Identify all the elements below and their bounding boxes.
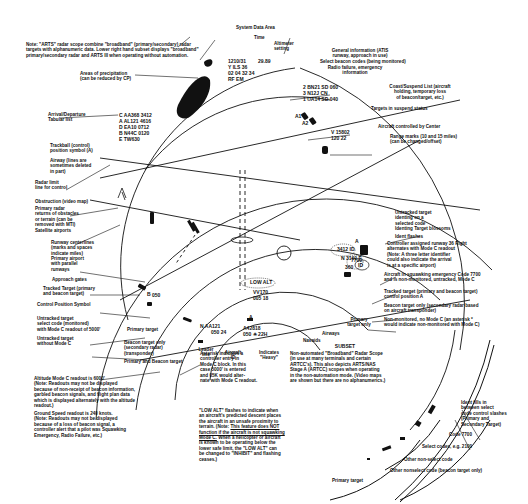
tabular-row: E TW630 [119, 137, 140, 143]
subset-primary-target [367, 458, 370, 460]
tracked-alt: 050 [152, 293, 160, 299]
airways-label: Airways [322, 331, 340, 336]
subset-select-code [415, 420, 422, 427]
primary-target-left [183, 317, 192, 323]
ident-blossom [360, 245, 368, 255]
satellite-airports-label: Satellite airports [35, 228, 71, 233]
a42-line-2: 050 ✳ 22H [243, 332, 267, 338]
suspend-label: Targets in suspend status [371, 106, 428, 111]
ident-a: A [355, 239, 359, 245]
ident-blossoms-label: Identing Target blossoms [395, 226, 451, 231]
control-position-label: Control Position Symbol [37, 302, 91, 307]
runway-centerlines-label: Runway centerlines (marks and spaces ind… [51, 240, 94, 256]
beacon-only-right-label: Beacon target only (secondary radar base… [384, 303, 478, 314]
tracked-letter: B [147, 292, 151, 298]
suspend-target-a2 [309, 117, 317, 126]
tracked-target-label: Tracked Target (primary and beacon targe… [43, 286, 95, 297]
sda-line-4: RF EM [228, 77, 244, 83]
system-data-area-label: System Data Area [236, 25, 275, 30]
aa121-line-2: 050 24 [211, 330, 226, 336]
primary-only-label: Primary target only [342, 317, 376, 328]
subset-other-non-select-label: Other non-select code [404, 457, 453, 462]
non-monitored-label: Non-monitored, no Mode C (an asterisk * … [384, 317, 479, 328]
obstruction-label: Obstruction (video map) [35, 199, 88, 204]
approach-gates-label: Approach gates [52, 277, 87, 282]
general-info-label: General information (ATIS runway, approa… [310, 48, 410, 59]
precipitation-label: Areas of precipitation (can be reduced b… [80, 71, 131, 82]
coast-list-label: Coast/Suspend List (aircraft holding, te… [370, 84, 470, 100]
suspend-a2: A2 [302, 121, 308, 127]
radar-limit-label: Radar limit line for control [35, 180, 67, 191]
subset-primary-target-label: Primary target [332, 478, 363, 483]
tabular-list-label: Arrival/Departure Tabular list [48, 112, 86, 123]
obstruction-icon [118, 188, 126, 200]
untracked-select-label: Untracked target select code (monitored)… [37, 316, 100, 332]
ident-code: 3412 ID [337, 247, 355, 253]
untracked-ident-label: Untracked target identing on a selected … [395, 210, 432, 226]
tracked-pos-a-label: Tracked target (primary and beacon targe… [384, 289, 477, 300]
trackball-label: Trackball (control) position symbol (A) [50, 143, 93, 154]
subset-code7700-label: Code 7700 [449, 432, 472, 437]
subset-text: Non-automated "Broadband" Radar Scope (i… [290, 351, 410, 383]
satellite-airport [150, 212, 154, 224]
airway-label: Airway (lines are sometimes deleted in p… [50, 158, 91, 174]
primary-airport-ellipse [231, 237, 253, 243]
low-alt-flag: LOW ALT [250, 280, 272, 286]
aa121-target [198, 340, 203, 343]
emergency-label: Aircraft in squawking emergency Code 770… [384, 272, 481, 283]
ident-flashes-label: Ident flashes [395, 234, 423, 239]
primary-returns-label: Primary radar returns of obstacles or te… [35, 206, 79, 228]
center-aircraft-symbol [322, 146, 328, 154]
subset-nonselect-beacon [382, 445, 391, 451]
select-beacon-label: Select beacon codes (being monitored) [320, 59, 406, 64]
emergency-target [344, 272, 351, 277]
time-label: Time [254, 35, 265, 40]
altimeter-label: Altimeter setting [274, 41, 294, 52]
beacon-only-label: Beacon target only (secondary radar) (tr… [124, 340, 165, 356]
altimeter-value: 29.89 [258, 59, 271, 65]
alt-360: 360 [345, 265, 353, 271]
coast-line-3: 1 UA14 SD 040 [303, 97, 338, 103]
control-position-symbol [147, 302, 152, 306]
ground-speed-note: Ground Speed readout is 240 knots. (Note… [34, 411, 144, 438]
subset-ident-fills: Ident fills in between select code contr… [461, 400, 507, 427]
radio-failure-label: Radio failure, emergency information [320, 65, 390, 76]
primary-airport-label: Primary airport with parallel runways [51, 256, 84, 272]
a42-letter: A [249, 315, 253, 321]
range-marks-label: Range marks (10 and 15 miles) (can be ch… [390, 134, 480, 145]
runway-assign-label: Controller assigned runway 36 Right alte… [387, 241, 467, 268]
untracked-no-modec-label: Untracked target without Mode C [37, 336, 74, 347]
top-note: Note: "ARTS" radar scope combine "broadb… [26, 42, 206, 58]
code-7700: 7700 [351, 258, 362, 264]
ident-id: ID [358, 263, 363, 269]
suspend-a1: A1 [295, 114, 301, 120]
low-alt-line-2: 005 18 [253, 296, 268, 302]
center-line-2: 120 22 [331, 136, 346, 142]
primary-target-label: Primary target [127, 327, 158, 332]
subset-select-codes-label: Select codes, e.g. 2100 [422, 444, 472, 449]
altitude-note: Altitude Mode C readout is 6000' (Note: … [34, 376, 144, 408]
subset-title: SUBSET [325, 344, 365, 349]
low-alt-note: "LOW ALT" flashes to indicate when an ai… [199, 408, 319, 462]
asterisk-note: Asterisk indicates a controller entry in… [200, 351, 270, 383]
primary-beacon-label: Primary and Beacon target [124, 359, 182, 364]
center-label: Aircraft controlled by Center [378, 124, 440, 129]
subset-code7700 [428, 405, 436, 415]
navaids-label: Navaids [303, 338, 321, 343]
subset-non-select [400, 437, 405, 440]
precipitation-area [177, 76, 210, 118]
subset-nonselect-beacon-label: Other nonselect code (beacon target only… [390, 468, 482, 473]
